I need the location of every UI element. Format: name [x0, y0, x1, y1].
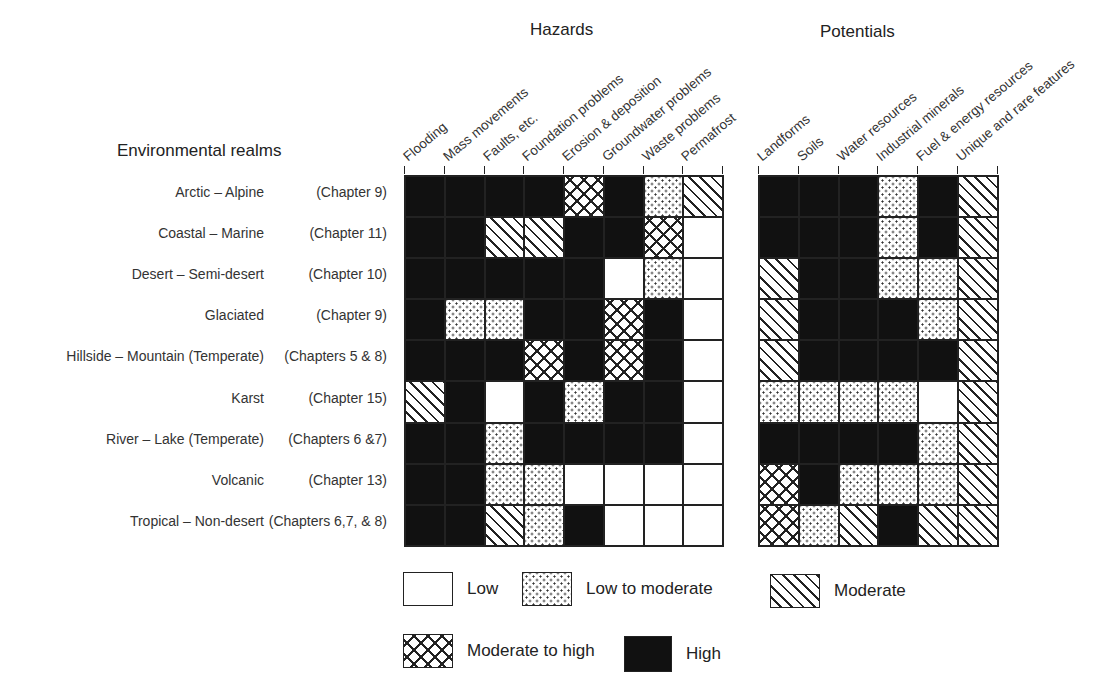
- cell-hazards-r7-c7: [683, 464, 723, 505]
- cell-hazards-r0-c6: [644, 176, 684, 217]
- cell-hazards-r4-c6: [644, 340, 684, 381]
- cell-hazards-r2-c6: [644, 258, 684, 299]
- cell-potentials-r0-c0: [759, 176, 799, 217]
- cell-hazards-r5-c2: [485, 381, 525, 422]
- legend-swatch: [522, 572, 572, 606]
- cell-potentials-r3-c4: [918, 299, 958, 340]
- cell-hazards-r1-c7: [683, 217, 723, 258]
- cell-hazards-r3-c1: [445, 299, 485, 340]
- cell-potentials-r6-c4: [918, 423, 958, 464]
- cell-hazards-r3-c2: [485, 299, 525, 340]
- row-label-chapter: (Chapter 15): [308, 390, 387, 406]
- cell-potentials-r2-c0: [759, 258, 799, 299]
- cell-potentials-r3-c1: [799, 299, 839, 340]
- cell-hazards-r5-c0: [405, 381, 445, 422]
- cell-hazards-r2-c4: [564, 258, 604, 299]
- cell-hazards-r1-c4: [564, 217, 604, 258]
- cell-hazards-r7-c2: [485, 464, 525, 505]
- cell-potentials-r5-c2: [839, 381, 879, 422]
- row-label-chapter: (Chapter 11): [309, 225, 387, 241]
- cell-potentials-r6-c5: [958, 423, 998, 464]
- cell-potentials-r8-c4: [918, 505, 958, 546]
- legend-swatch: [403, 634, 453, 668]
- cell-potentials-r1-c0: [759, 217, 799, 258]
- cell-hazards-r8-c2: [485, 505, 525, 546]
- cell-hazards-r4-c3: [524, 340, 564, 381]
- cell-hazards-r0-c7: [683, 176, 723, 217]
- cell-hazards-r7-c0: [405, 464, 445, 505]
- cell-hazards-r5-c6: [644, 381, 684, 422]
- cell-hazards-r4-c1: [445, 340, 485, 381]
- column-tick: [957, 166, 958, 174]
- row-label-chapter: (Chapters 5 & 8): [284, 348, 387, 364]
- cell-hazards-r6-c1: [445, 423, 485, 464]
- legend-label: Moderate to high: [467, 641, 595, 661]
- cell-hazards-r8-c6: [644, 505, 684, 546]
- cell-potentials-r5-c1: [799, 381, 839, 422]
- cell-potentials-r8-c0: [759, 505, 799, 546]
- row-label-realm: Volcanic: [212, 472, 264, 488]
- cell-hazards-r7-c1: [445, 464, 485, 505]
- cell-potentials-r2-c2: [839, 258, 879, 299]
- cell-potentials-r8-c1: [799, 505, 839, 546]
- cell-hazards-r1-c1: [445, 217, 485, 258]
- cell-potentials-r2-c1: [799, 258, 839, 299]
- cell-hazards-r7-c5: [604, 464, 644, 505]
- legend-item: Low to moderate: [522, 572, 713, 606]
- cell-hazards-r6-c3: [524, 423, 564, 464]
- cell-potentials-r3-c5: [958, 299, 998, 340]
- cell-potentials-r7-c4: [918, 464, 958, 505]
- cell-hazards-r1-c5: [604, 217, 644, 258]
- row-label-realm: River – Lake (Temperate): [106, 431, 264, 447]
- cell-potentials-r7-c5: [958, 464, 998, 505]
- legend-label: Moderate: [834, 581, 906, 601]
- cell-hazards-r6-c5: [604, 423, 644, 464]
- column-header: Soils: [794, 134, 826, 164]
- cell-hazards-r2-c5: [604, 258, 644, 299]
- column-tick: [758, 166, 759, 174]
- cell-potentials-r8-c2: [839, 505, 879, 546]
- cell-hazards-r4-c4: [564, 340, 604, 381]
- cell-potentials-r1-c2: [839, 217, 879, 258]
- group-title-potentials: Potentials: [820, 22, 895, 42]
- column-tick: [444, 166, 445, 174]
- column-tick: [917, 166, 918, 174]
- cell-hazards-r0-c1: [445, 176, 485, 217]
- row-label-realm: Coastal – Marine: [158, 225, 264, 241]
- cell-hazards-r8-c3: [524, 505, 564, 546]
- cell-hazards-r3-c3: [524, 299, 564, 340]
- row-label-realm: Tropical – Non-desert: [130, 513, 264, 529]
- row-label-realm: Glaciated: [205, 307, 264, 323]
- cell-hazards-r7-c4: [564, 464, 604, 505]
- cell-hazards-r8-c1: [445, 505, 485, 546]
- cell-hazards-r0-c0: [405, 176, 445, 217]
- cell-potentials-r2-c5: [958, 258, 998, 299]
- cell-hazards-r3-c5: [604, 299, 644, 340]
- cell-hazards-r4-c0: [405, 340, 445, 381]
- cell-potentials-r7-c3: [878, 464, 918, 505]
- cell-potentials-r1-c5: [958, 217, 998, 258]
- cell-potentials-r2-c4: [918, 258, 958, 299]
- cell-hazards-r5-c5: [604, 381, 644, 422]
- cell-hazards-r3-c4: [564, 299, 604, 340]
- row-label-realm: Karst: [231, 390, 264, 406]
- cell-hazards-r5-c3: [524, 381, 564, 422]
- cell-potentials-r0-c4: [918, 176, 958, 217]
- cell-potentials-r8-c5: [958, 505, 998, 546]
- row-label-realm: Hillside – Mountain (Temperate): [66, 348, 264, 364]
- cell-hazards-r5-c4: [564, 381, 604, 422]
- cell-potentials-r5-c0: [759, 381, 799, 422]
- cell-potentials-r4-c5: [958, 340, 998, 381]
- column-header: Flooding: [400, 119, 449, 164]
- cell-hazards-r2-c2: [485, 258, 525, 299]
- cell-potentials-r0-c5: [958, 176, 998, 217]
- legend-item: High: [624, 636, 721, 672]
- cell-potentials-r6-c3: [878, 423, 918, 464]
- potentials-grid: [758, 175, 999, 547]
- cell-hazards-r3-c0: [405, 299, 445, 340]
- legend-swatch: [403, 572, 453, 606]
- cell-hazards-r8-c4: [564, 505, 604, 546]
- hazards-grid: [404, 175, 724, 547]
- row-label-chapter: (Chapter 10): [308, 266, 387, 282]
- cell-hazards-r2-c3: [524, 258, 564, 299]
